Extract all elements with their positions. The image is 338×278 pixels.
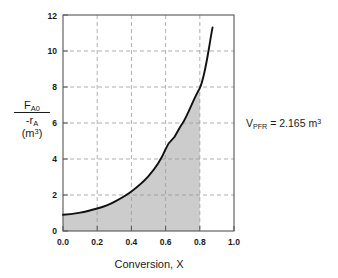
xticklabel-1: 0.2 <box>91 237 103 247</box>
xticklabel-2: 0.4 <box>125 237 137 247</box>
annotation-value: 2.165 <box>279 117 305 129</box>
y-axis-units: (m3) <box>8 128 56 139</box>
xticklabel-3: 0.6 <box>160 237 172 247</box>
yticklabel-2: 4 <box>52 154 57 164</box>
yticklabel-5: 10 <box>48 46 58 56</box>
y-axis-units-open: (m <box>22 127 35 139</box>
xticklabel-4: 0.8 <box>194 237 206 247</box>
xticklabel-5: 1.0 <box>228 237 240 247</box>
pfr-volume-annotation: VPFR = 2.165 m3 <box>246 117 321 129</box>
yticklabel-4: 8 <box>52 82 57 92</box>
annotation-unit-exponent: 3 <box>317 118 321 126</box>
xticklabel-0: 0.0 <box>57 237 69 247</box>
chart-figure: 0.0 0.2 0.4 0.6 0.8 1.0 0 2 4 6 8 10 12 … <box>0 0 338 278</box>
y-axis-numerator-subscript: A0 <box>31 104 40 113</box>
y-axis-numerator-symbol: F <box>24 99 31 111</box>
yticklabel-6: 12 <box>48 11 58 21</box>
annotation-equals: = <box>267 117 279 129</box>
y-axis-label-denominator: -rA <box>8 114 56 126</box>
annotation-unit: m <box>306 117 318 129</box>
x-axis-label: Conversion, X <box>63 258 235 270</box>
plot-canvas: 0.0 0.2 0.4 0.6 0.8 1.0 0 2 4 6 8 10 12 <box>0 0 338 278</box>
y-axis-label: FA0 -rA (m3) <box>8 100 56 139</box>
y-axis-units-close: ) <box>39 127 43 139</box>
annotation-symbol-subscript: PFR <box>253 123 267 131</box>
annotation-symbol: V <box>246 117 253 129</box>
y-axis-label-numerator: FA0 <box>8 100 56 112</box>
yticklabel-0: 0 <box>52 226 57 236</box>
yticklabel-1: 2 <box>52 190 57 200</box>
